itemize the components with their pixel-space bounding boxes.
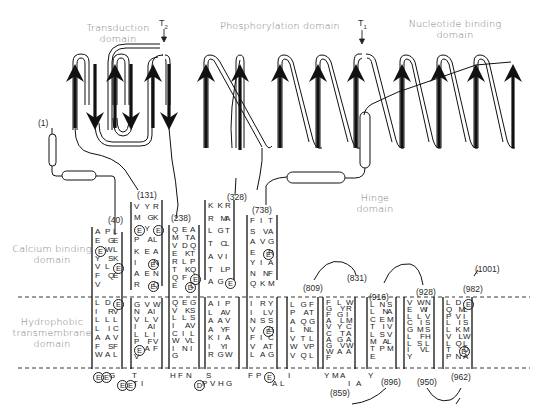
label-line: domain (350, 203, 400, 214)
residue: G (218, 227, 224, 235)
residue: R (268, 249, 274, 257)
residue: V (134, 353, 139, 361)
residue-number-928: (928) (416, 288, 436, 297)
residue: I (225, 253, 227, 261)
residue: G (172, 352, 178, 360)
residue: I (260, 259, 262, 267)
hydrophobic-domain-label: Hydrophobic transmembrane domain (12, 316, 92, 349)
residue: A (337, 348, 342, 356)
residue: V (134, 203, 139, 211)
residue: L (113, 246, 117, 254)
residue-number-962: (962) (451, 373, 471, 382)
residue: F (153, 345, 158, 353)
residue: M (387, 345, 394, 353)
label-line: transmembrane (12, 327, 92, 338)
residue-number-40: (40) (108, 216, 123, 225)
residue: T (208, 266, 213, 274)
residue: D (105, 299, 111, 307)
residue: P (105, 228, 110, 236)
residue: P (309, 343, 314, 351)
residue: E (370, 353, 375, 361)
label-line: Transduction (75, 22, 161, 33)
residue: P (202, 380, 207, 388)
residue: P (225, 300, 230, 308)
residue: M (332, 372, 339, 380)
residue: Y (250, 259, 255, 267)
residue: A (268, 228, 273, 236)
residue: N (186, 372, 192, 380)
hinge-domain-label: Hinge domain (350, 192, 400, 214)
residue: K (113, 255, 118, 263)
residue: S (206, 372, 211, 380)
residue-number-131: (131) (137, 191, 157, 200)
residue: Y (145, 203, 150, 211)
label-line: domain (12, 254, 92, 265)
residue: K (260, 280, 265, 288)
residue-number-831: (831) (347, 274, 367, 283)
residue: V (113, 334, 118, 342)
residue: L (250, 351, 254, 359)
nucleotide-binding-domain-label: Nucleotide binding domain (400, 18, 510, 40)
residue: T (225, 227, 230, 235)
residue-number-896: (896) (381, 378, 401, 387)
transduction-domain-label: Transduction domain (75, 22, 161, 44)
residue: Y (268, 300, 273, 308)
residue: L (95, 325, 99, 333)
residue: L (425, 346, 429, 354)
residue: L (95, 299, 99, 307)
residue: W (95, 351, 103, 359)
residue: E (95, 237, 100, 245)
residue: I (182, 330, 184, 338)
residue: W (105, 246, 113, 254)
residue: L (280, 380, 284, 388)
residue: R (208, 351, 214, 359)
residue: S (260, 317, 265, 325)
residue: E (113, 237, 118, 245)
label-line: Nucleotide binding (400, 18, 510, 29)
label-line: domain (75, 33, 161, 44)
tryptic-site-arrows (162, 29, 365, 44)
t-subscript: 2 (165, 24, 168, 30)
label-line: Hinge (350, 192, 400, 203)
residue: A (340, 372, 345, 380)
residue: V (290, 352, 295, 360)
residue: I (190, 345, 192, 353)
residue: Q (153, 281, 159, 289)
residue: R (208, 215, 214, 223)
residue: A (208, 317, 213, 325)
residue-number-1: (1) (38, 119, 48, 128)
residue: N (250, 270, 256, 278)
transduction-tube (73, 44, 170, 146)
residue: A (208, 278, 213, 286)
residue: E (113, 272, 118, 280)
residue: A (225, 215, 230, 223)
residue: E (145, 248, 150, 256)
transduction-domain-strands (73, 44, 170, 146)
residue-number-238: (238) (171, 214, 191, 223)
residue: E (145, 270, 150, 278)
residue: V (210, 380, 215, 388)
residue: N (153, 259, 159, 267)
residue: I (218, 334, 220, 342)
residue-number-859: (859) (330, 389, 350, 398)
residue: L (105, 263, 109, 271)
residue: G (226, 380, 232, 388)
residue-number-809: (809) (303, 284, 323, 293)
residue: M (134, 214, 141, 222)
residue: H (170, 372, 176, 380)
residue: I (348, 380, 350, 388)
residue: Y (324, 372, 329, 380)
calcium-binding-domain-label: Calcium binding domain (12, 243, 92, 265)
residue: T (268, 217, 273, 225)
residue: I (218, 300, 220, 308)
residue: P (256, 372, 261, 380)
residue: V (260, 238, 265, 246)
residue: W (290, 343, 298, 351)
residue: A (463, 353, 468, 361)
residue-number-982: (982) (463, 285, 483, 294)
residue: I (260, 217, 262, 225)
label-line: Hydrophobic (12, 316, 92, 327)
residue: A (250, 238, 255, 246)
residue: P (446, 353, 451, 361)
residue: A (268, 259, 273, 267)
